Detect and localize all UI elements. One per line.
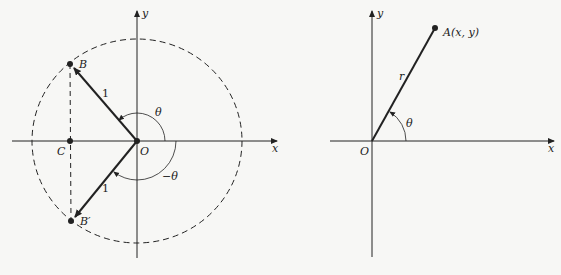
- x-axis-label: x: [272, 142, 279, 155]
- vector-ob: [74, 68, 137, 141]
- point-b: [67, 61, 73, 67]
- right-diagram: y x O A(x, y) r θ: [330, 7, 555, 257]
- theta-arc: [390, 112, 406, 141]
- figure-canvas: y x B C O B′ 1 1 θ −θ y x O A(x, y) r θ: [0, 0, 561, 275]
- label-a: A(x, y): [442, 26, 479, 39]
- point-c: [67, 138, 73, 144]
- label-theta: θ: [155, 106, 162, 119]
- label-b: B: [78, 58, 87, 71]
- point-o: [134, 138, 140, 144]
- label-c: C: [57, 145, 66, 158]
- point-a: [432, 25, 438, 31]
- label-ob-length: 1: [102, 87, 109, 100]
- y-axis-label: y: [141, 7, 149, 20]
- left-diagram: y x B C O B′ 1 1 θ −θ: [12, 7, 279, 258]
- label-theta: θ: [406, 117, 413, 130]
- point-b-prime: [68, 218, 74, 224]
- label-b-prime: B′: [79, 215, 91, 228]
- y-axis-label: y: [376, 7, 384, 20]
- x-axis-label: x: [548, 142, 555, 155]
- segment-oa: [372, 28, 435, 141]
- label-o: O: [140, 145, 149, 158]
- label-o: O: [360, 145, 369, 158]
- label-neg-theta: −θ: [162, 170, 178, 183]
- label-r: r: [399, 70, 405, 83]
- label-ob-prime-length: 1: [102, 182, 109, 195]
